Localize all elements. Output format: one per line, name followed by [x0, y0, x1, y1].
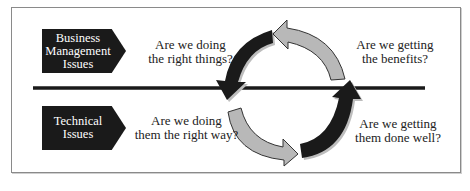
question-right-things: Are we doing the right things? — [143, 38, 238, 66]
question-benefits: Are we getting the benefits? — [345, 38, 445, 66]
tag-line: Issues — [43, 58, 125, 71]
question-line: them done well? — [348, 131, 448, 145]
technical-issues-tag: Technical Issues — [42, 106, 126, 150]
question-line: the right things? — [143, 52, 238, 66]
question-line: Are we getting — [348, 117, 448, 131]
tag-line: Issues — [43, 128, 125, 141]
tag-line: Business — [43, 32, 125, 45]
question-done-well: Are we getting them done well? — [348, 117, 448, 145]
question-line: Are we getting — [345, 38, 445, 52]
question-line: them the right way? — [134, 128, 239, 142]
question-line: Are we doing — [134, 114, 239, 128]
arrow-top-right-icon — [273, 20, 345, 80]
cycle-diagram — [0, 0, 470, 191]
question-right-way: Are we doing them the right way? — [134, 114, 239, 142]
business-management-issues-tag: Business Management Issues — [42, 29, 126, 73]
question-line: Are we doing — [143, 38, 238, 52]
tag-line: Management — [43, 45, 125, 58]
question-line: the benefits? — [345, 52, 445, 66]
